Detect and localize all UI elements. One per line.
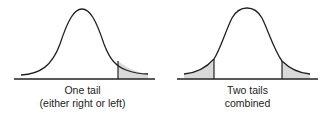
normal-curve (184, 8, 310, 74)
caption-line-2: (either right or left) (10, 97, 155, 110)
caption-line-1: Two tails (175, 84, 320, 97)
right-tail-shade (118, 61, 148, 79)
one-tail-caption: One tail (either right or left) (10, 84, 155, 110)
normal-curve (21, 9, 148, 75)
caption-line-1: One tail (10, 84, 155, 97)
caption-line-2: combined (175, 97, 320, 110)
one-tail-panel (14, 9, 155, 79)
two-tails-panel (177, 8, 318, 79)
two-tails-caption: Two tails combined (175, 84, 320, 110)
